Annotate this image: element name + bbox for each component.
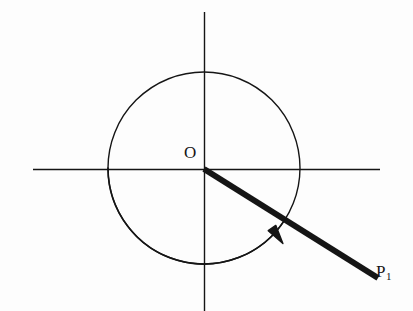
terminal-ray (204, 169, 378, 278)
directed-angle-arc (108, 168, 285, 264)
origin-label: O (184, 143, 196, 163)
point-p1-label: P1 (376, 262, 391, 282)
point-p1-subscript: 1 (386, 270, 392, 282)
figure-canvas (0, 0, 413, 311)
point-p1-letter: P (376, 262, 385, 281)
arc-arrowhead-icon (268, 225, 283, 243)
geometry-figure: O P1 (0, 0, 413, 311)
